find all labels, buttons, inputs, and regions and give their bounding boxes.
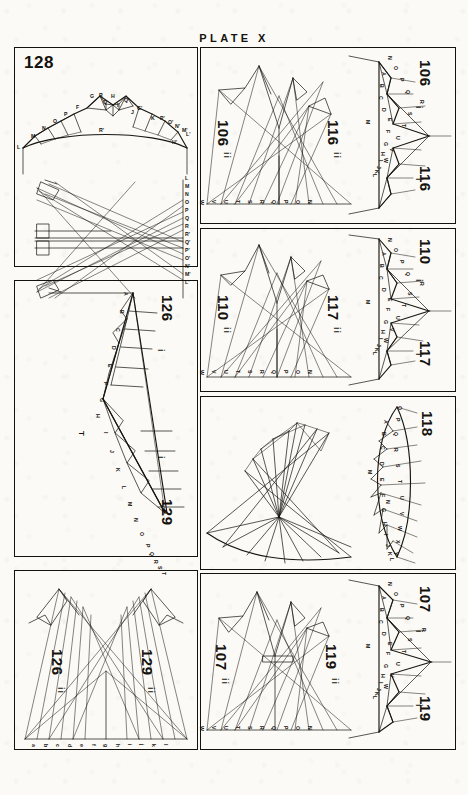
- truss-outer-label-118: X: [395, 540, 400, 543]
- truss-inner-label-110: C: [378, 276, 383, 280]
- truss-outer-label-106: R: [419, 100, 424, 104]
- load-line-label-107: W: [199, 726, 204, 731]
- truss-outer-label-118: Q: [393, 432, 398, 436]
- load-line-label-107: Q: [271, 726, 276, 730]
- load-line-label-128: Q: [185, 216, 189, 221]
- truss-inner-label-110: G: [383, 320, 388, 324]
- load-line-label-128: M': [185, 272, 191, 277]
- load-line-label-106: S: [247, 200, 252, 203]
- truss-label-128: L: [17, 145, 20, 150]
- figure-part-110-ii: ii: [222, 327, 231, 334]
- truss-label-128: O: [53, 119, 57, 124]
- figure-part-129-i: i: [156, 456, 165, 460]
- truss-label-128: I: [117, 103, 118, 108]
- truss-inner-label-110: J: [376, 344, 381, 347]
- load-line-label-110: Q: [271, 370, 276, 374]
- truss-label-126: S: [157, 566, 162, 569]
- load-line-label-110: V: [211, 370, 216, 373]
- load-line-label-110: U: [223, 370, 228, 374]
- figure-part-126-ii: ii: [56, 687, 65, 694]
- figure-number-129-ii: 129: [140, 649, 155, 676]
- truss-inner-label-118: M: [367, 470, 372, 474]
- truss-label-126: M: [127, 502, 132, 506]
- truss-inner-label-106: M: [365, 120, 370, 124]
- figure-part-116-ii: ii: [332, 152, 341, 159]
- figure-part-116-i: i: [414, 178, 423, 182]
- truss-inner-label-106: D: [381, 108, 386, 112]
- truss-label-128: R': [99, 128, 104, 133]
- truss-inner-label-118: B: [381, 432, 386, 436]
- load-line-label-107: T: [235, 726, 240, 729]
- figure-part-106-ii: ii: [222, 152, 231, 159]
- truss-label-126: N: [133, 518, 138, 522]
- truss-inner-label-118: I: [383, 534, 388, 535]
- truss-outer-label-106: N: [387, 56, 392, 60]
- load-line-label-126: b: [43, 744, 48, 747]
- figure-number-129: 129: [160, 499, 175, 526]
- truss-inner-label-107: E: [387, 642, 392, 645]
- panel-106-116: 106 i 116 i 106 ii 116 ii: [200, 47, 456, 224]
- truss-label-126: G: [99, 398, 104, 402]
- truss-inner-label-106: C: [378, 96, 383, 100]
- truss-inner-label-106: J: [376, 166, 381, 169]
- load-line-label-128: Q': [185, 240, 190, 245]
- panel-110-117: 110 i 117 i 110 ii 117 ii: [200, 228, 456, 392]
- truss-inner-label-110: F: [385, 308, 390, 311]
- figure-part-106-i: i: [414, 106, 423, 110]
- load-line-label-110: R: [259, 370, 264, 374]
- truss-outer-label-107: T: [401, 650, 406, 653]
- center-label-T: T: [77, 431, 85, 436]
- load-line-label-128: P': [185, 248, 190, 253]
- panel-126ii-129ii: 126 ii 129 ii: [14, 570, 198, 750]
- truss-label-128: Q: [103, 100, 107, 105]
- truss-outer-label-110: S: [407, 292, 412, 295]
- truss-inner-label-107: C: [378, 620, 383, 624]
- truss-label-128: M: [31, 134, 35, 139]
- load-line-label-106: P: [283, 200, 288, 203]
- load-line-label-128: L': [185, 280, 189, 285]
- panel-118: 118: [200, 396, 456, 570]
- truss-label-126: P: [145, 544, 150, 547]
- truss-outer-label-110: Q: [405, 272, 410, 276]
- panel-126-129: 126 i 129 i T: [14, 280, 198, 557]
- truss-label-126: K: [115, 468, 120, 472]
- load-line-label-128: M: [185, 184, 189, 189]
- truss-label-128: N: [42, 126, 46, 131]
- figure-part-117-ii: ii: [332, 327, 341, 334]
- load-line-label-106: V: [211, 200, 216, 203]
- truss-label-128: L': [186, 132, 190, 137]
- panel-128-drawing: [15, 48, 197, 266]
- truss-inner-label-107: I: [378, 682, 383, 683]
- truss-outer-label-106: U: [395, 136, 400, 140]
- truss-inner-label-106: G: [383, 142, 388, 146]
- truss-outer-label-107: N: [387, 582, 392, 586]
- load-line-label-106: O: [295, 200, 300, 204]
- load-line-label-110: N: [307, 370, 312, 374]
- load-line-label-128: O: [185, 200, 189, 205]
- figure-number-106-ii: 106: [216, 120, 231, 147]
- load-line-label-128: N': [185, 264, 190, 269]
- load-line-label-106: R: [259, 200, 264, 204]
- truss-outer-label-118: W: [397, 526, 402, 531]
- truss-outer-label-107: R: [421, 628, 426, 632]
- truss-inner-label-118: A: [383, 420, 388, 424]
- page-title: PLATE X: [0, 32, 468, 44]
- load-line-label-126: k: [151, 744, 156, 747]
- truss-outer-label-107: U: [395, 662, 400, 666]
- truss-label-126: H: [95, 414, 100, 418]
- load-line-label-110: S: [247, 370, 252, 373]
- truss-outer-label-118: R: [393, 448, 398, 452]
- load-line-label-107: U: [223, 726, 228, 730]
- truss-outer-label-107: S: [407, 638, 412, 641]
- truss-inner-label-118: E: [379, 478, 384, 481]
- figure-number-126: 126: [160, 295, 175, 322]
- truss-inner-label-107: D: [381, 632, 386, 636]
- load-line-label-110: P: [283, 370, 288, 373]
- plate-page: PLATE X 12: [0, 0, 468, 795]
- truss-label-126: A: [123, 292, 128, 296]
- truss-inner-label-110: I: [378, 338, 383, 339]
- truss-label-126: Q: [149, 552, 154, 556]
- truss-inner-label-110: L: [372, 352, 377, 355]
- load-line-label-107: P: [283, 726, 288, 729]
- truss-inner-label-118: L: [389, 558, 394, 561]
